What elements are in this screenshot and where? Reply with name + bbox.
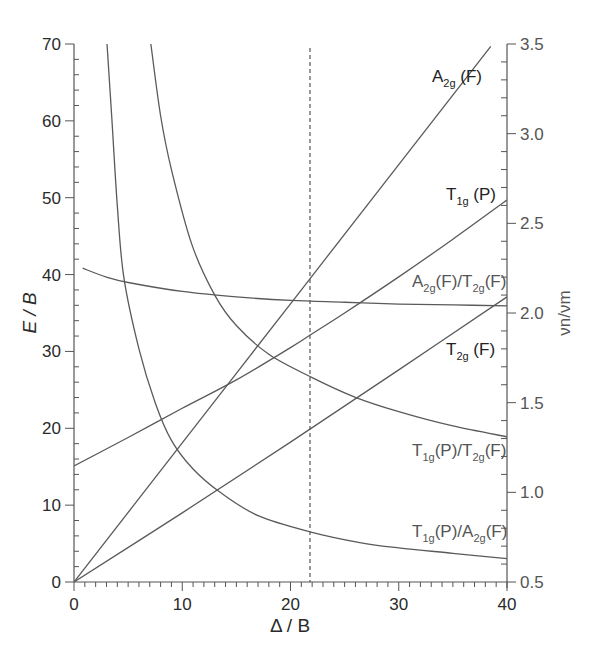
y-tick-label: 60: [42, 112, 61, 131]
curve-a2g-f: [74, 46, 491, 582]
y2-tick-label: 2.0: [520, 304, 544, 323]
label-t1g-p: T1g (P): [446, 185, 496, 207]
y2-tick-label: 3.5: [520, 35, 544, 54]
y2-axis-title: νn/νm: [555, 290, 574, 335]
label-t1g-p-a2g-f: T1g(P)/A2g(F): [412, 522, 507, 544]
label-t2g-f: T2g (F): [446, 340, 495, 362]
label-a2g-f-t2g-f: A2g(F)/T2g(F): [412, 272, 506, 294]
y-tick-label: 70: [42, 35, 61, 54]
y-tick-label: 40: [42, 266, 61, 285]
x-tick-label: 40: [498, 595, 517, 614]
y2-tick-label: 1.0: [520, 483, 544, 502]
curve-t1g-p: [74, 200, 507, 466]
y-tick-label: 10: [42, 496, 61, 515]
x-tick-label: 20: [281, 595, 300, 614]
y2-tick-label: 0.5: [520, 573, 544, 592]
x-tick-label: 0: [69, 595, 78, 614]
y-tick-label: 50: [42, 189, 61, 208]
curve-t1g-p-t2g-f: [151, 44, 507, 437]
x-tick-label: 30: [389, 595, 408, 614]
label-t1g-p-t2g-f: T1g(P)/T2g(F): [412, 441, 506, 463]
y-tick-label: 0: [52, 573, 61, 592]
energy-level-chart: 0102030405060700102030400.51.01.52.02.53…: [0, 0, 606, 662]
label-a2g-f: A2g (F): [432, 67, 482, 89]
y-tick-label: 20: [42, 419, 61, 438]
y2-tick-label: 3.0: [520, 125, 544, 144]
y-axis-title: E / B: [19, 292, 40, 334]
y-tick-label: 30: [42, 342, 61, 361]
data-series: [74, 44, 507, 582]
y2-tick-label: 1.5: [520, 394, 544, 413]
y2-tick-label: 2.5: [520, 214, 544, 233]
x-tick-label: 10: [173, 595, 192, 614]
x-axis-title: Δ / B: [270, 615, 310, 636]
